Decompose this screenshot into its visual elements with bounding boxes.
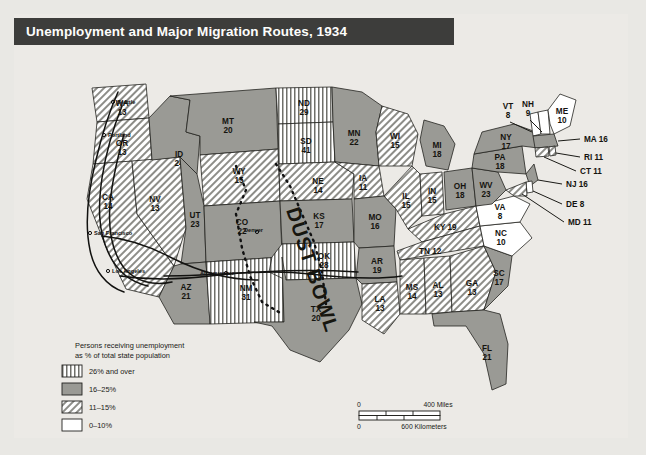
city-albuquerque: Albuquerque: [200, 270, 235, 276]
state-label-md: MD 11: [568, 218, 592, 227]
city-label-albuquerque: Albuquerque: [200, 270, 235, 276]
state-value-in: 15: [427, 196, 437, 205]
state-value-il: 15: [401, 201, 411, 210]
state-label-ar: AR: [371, 257, 383, 266]
state-value-la: 13: [375, 304, 385, 313]
city-label-san-francisco: San Francisco: [94, 230, 133, 236]
state-value-sd: 41: [301, 146, 311, 155]
state-label-wi: WI: [390, 132, 400, 141]
legend-swatch-blank: [62, 419, 82, 431]
state-label-al: AL: [433, 281, 444, 290]
state-label-ia: IA: [359, 174, 367, 183]
state-label-id: ID: [175, 150, 183, 159]
legend-swatch-diagonal-hatch: [62, 401, 82, 413]
state-oh[interactable]: OH 18: [444, 168, 476, 210]
state-value-ca: 14: [103, 202, 113, 211]
state-label-mn: MN: [348, 129, 361, 138]
state-label-de: DE 8: [566, 200, 585, 209]
legend-item-16-25[interactable]: 16–25%: [62, 383, 117, 395]
state-label-tn: TN 12: [419, 247, 442, 256]
city-denver: Denver: [244, 227, 264, 234]
scale-km-max: 600 Kilometers: [401, 423, 447, 430]
city-label-portland: Portland: [108, 132, 131, 138]
state-value-wi: 15: [390, 141, 400, 150]
state-label-il: IL: [402, 192, 409, 201]
state-value-fl: 21: [482, 353, 492, 362]
state-ms[interactable]: MS 14: [400, 258, 426, 314]
state-label-in: IN: [428, 187, 436, 196]
state-value-nc: 10: [496, 238, 506, 247]
legend-heading-line1: Persons receiving unemployment: [75, 341, 184, 350]
state-value-me: 10: [557, 116, 567, 125]
state-label-ky: KY 19: [434, 223, 457, 232]
state-value-ks: 17: [314, 221, 324, 230]
legend-label-26-and-over: 26% and over: [89, 367, 135, 376]
state-label-mo: MO: [368, 213, 382, 222]
state-value-va: 8: [498, 212, 503, 221]
state-label-nd: ND: [298, 99, 310, 108]
legend-item-11-15[interactable]: 11–15%: [62, 401, 116, 413]
city-label-seattle: Seattle: [117, 99, 135, 105]
state-label-pa: PA: [495, 153, 506, 162]
page-title: Unemployment and Major Migration Routes,…: [26, 24, 347, 39]
state-label-la: LA: [375, 295, 386, 304]
city-label-los-angeles: Los Angeles: [112, 268, 145, 274]
state-label-ks: KS: [313, 212, 325, 221]
state-value-al: 13: [433, 290, 443, 299]
state-label-ny: NY: [500, 133, 512, 142]
state-sd[interactable]: SD 41: [278, 122, 335, 164]
legend-label-11-15: 11–15%: [89, 403, 116, 412]
state-value-ne: 14: [313, 186, 323, 195]
state-value-nd: 29: [299, 108, 309, 117]
state-value-mo: 16: [370, 222, 380, 231]
state-nd[interactable]: ND 29: [276, 87, 333, 124]
state-value-oh: 18: [455, 191, 465, 200]
state-label-wv: WV: [479, 181, 493, 190]
state-label-vt: VT: [503, 102, 513, 111]
state-al[interactable]: AL 13: [424, 256, 452, 314]
state-value-az: 21: [181, 292, 191, 301]
state-ne[interactable]: NE 14: [279, 162, 354, 201]
state-value-nh: 9: [526, 109, 531, 118]
state-label-mt: MT: [222, 117, 234, 126]
state-value-mt: 20: [223, 126, 233, 135]
state-label-ga: GA: [466, 279, 478, 288]
state-label-oh: OH: [454, 182, 466, 191]
state-ct[interactable]: [535, 147, 549, 157]
state-label-nm: NM: [240, 284, 253, 293]
state-value-nm: 31: [241, 293, 251, 302]
state-value-vt: 8: [506, 111, 511, 120]
state-label-nh: NH: [522, 100, 534, 109]
state-label-sc: SC: [493, 269, 504, 278]
state-value-wv: 23: [481, 190, 491, 199]
state-value-ut: 23: [190, 220, 200, 229]
state-value-mi: 18: [432, 150, 442, 159]
state-label-ma: MA 16: [584, 135, 608, 144]
state-value-ga: 13: [467, 288, 477, 297]
state-label-ms: MS: [406, 283, 419, 292]
state-value-ms: 14: [407, 292, 417, 301]
state-label-mi: MI: [432, 141, 441, 150]
state-label-sd: SD: [300, 137, 311, 146]
city-los-angeles: Los Angeles: [106, 268, 145, 274]
state-mo[interactable]: MO 16: [354, 196, 396, 248]
legend-item-26-and-over[interactable]: 26% and over: [62, 365, 135, 377]
legend-label-0-10: 0–10%: [89, 421, 112, 430]
state-label-nc: NC: [495, 229, 507, 238]
state-label-va: VA: [495, 203, 506, 212]
state-value-nv: 13: [150, 204, 160, 213]
city-label-denver: Denver: [244, 227, 264, 233]
legend-heading-line2: as % of total state population: [75, 351, 170, 360]
state-label-ne: NE: [312, 177, 324, 186]
state-label-nj: NJ 16: [566, 180, 588, 189]
state-value-pa: 18: [495, 162, 505, 171]
state-label-ut: UT: [190, 211, 201, 220]
state-value-mn: 22: [349, 138, 359, 147]
state-ri[interactable]: [549, 146, 556, 156]
legend-label-migration-route: Migration route: [89, 437, 138, 438]
state-in[interactable]: IN 15: [420, 172, 444, 216]
map-canvas: WA 13 OR 13 CA 14 NV 13 ID 24 MT 20 WY 1…: [14, 14, 628, 438]
state-label-nv: NV: [149, 195, 161, 204]
map-title-bar: Unemployment and Major Migration Routes,…: [14, 18, 454, 45]
state-label-me: ME: [556, 107, 569, 116]
